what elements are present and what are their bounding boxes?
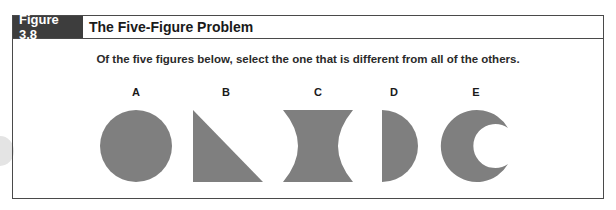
semicircle-icon	[349, 106, 439, 186]
figure-title: The Five-Figure Problem	[83, 16, 253, 38]
option-label: D	[349, 86, 439, 98]
option-d[interactable]: D	[349, 86, 439, 196]
circle-icon	[91, 106, 181, 186]
figure-number: Figure 3.8	[13, 16, 83, 38]
instruction-text: Of the five figures below, select the on…	[13, 53, 603, 65]
option-a[interactable]: A	[91, 86, 181, 196]
option-b[interactable]: B	[181, 86, 271, 196]
right-triangle-icon	[181, 106, 271, 186]
figure-header: Figure 3.8 The Five-Figure Problem	[13, 16, 603, 39]
option-label: E	[431, 86, 521, 98]
option-e[interactable]: E	[431, 86, 521, 196]
crescent-icon	[431, 106, 521, 186]
option-label: A	[91, 86, 181, 98]
figure-frame: Figure 3.8 The Five-Figure Problem Of th…	[12, 15, 604, 199]
option-label: B	[181, 86, 271, 98]
